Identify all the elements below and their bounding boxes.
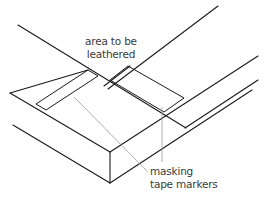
- label-area-line2: leathered: [85, 48, 137, 61]
- joint-diagram: [0, 0, 264, 197]
- label-tape-line2: tape markers: [150, 178, 218, 191]
- label-area-to-be-leathered: area to be leathered: [85, 35, 137, 61]
- board-top-left-edge: [10, 70, 88, 93]
- label-tape-line1: masking: [150, 165, 218, 178]
- label-masking-tape-markers: masking tape markers: [150, 165, 218, 191]
- label-area-line1: area to be: [85, 35, 137, 48]
- board-front-bottom-edge: [13, 125, 110, 183]
- board-top-right-edge: [185, 80, 258, 128]
- board-front-top-edge: [10, 93, 110, 152]
